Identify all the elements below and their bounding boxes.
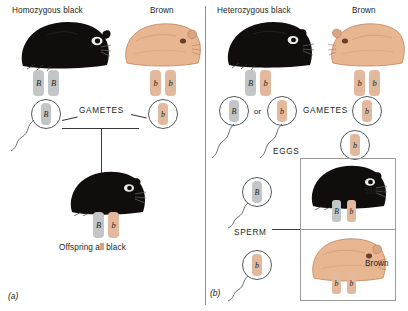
gamete-circle-icon: b <box>352 96 382 126</box>
allele-chip: B <box>252 181 262 203</box>
black-guinea-pig-icon <box>67 170 147 216</box>
allele-chip: b <box>347 272 356 294</box>
eggs-label: EGGS <box>273 147 299 156</box>
allele-chip: b <box>158 103 168 125</box>
offspring-result-label: Black <box>365 187 386 197</box>
offspring-result-label: Brown <box>365 259 389 269</box>
allele-chip: b <box>260 70 271 96</box>
cross-line <box>62 116 78 121</box>
parent-label-homozygous-black: Homozygous black <box>12 6 83 16</box>
allele-chip: B <box>332 200 341 222</box>
allele-chip: b <box>165 70 176 96</box>
allele-chip: B <box>41 103 51 125</box>
allele-chip: B <box>245 70 256 96</box>
allele-chip: b <box>369 70 380 96</box>
allele-chip: B <box>33 70 44 96</box>
allele-chip: B <box>48 70 59 96</box>
allele-chip: B <box>93 212 104 238</box>
parent-label-brown: Brown <box>150 6 174 16</box>
panel-tag-b: (b) <box>210 288 220 298</box>
parent-label-brown: Brown <box>352 6 376 16</box>
allele-chip: b <box>347 200 356 222</box>
gamete-conjunction: or <box>254 107 261 117</box>
panel-tag-a: (a) <box>8 291 18 301</box>
brown-guinea-pig-icon <box>328 21 406 69</box>
gametes-label: GAMETES <box>79 106 124 115</box>
gametes-label: GAMETES <box>303 106 348 115</box>
allele-chip: b <box>362 100 372 122</box>
punnett-row-divider <box>300 229 396 230</box>
cross-line <box>101 128 139 129</box>
sperm-tail-icon <box>208 124 238 160</box>
sperm-tail-icon <box>224 276 250 302</box>
allele-chip: b <box>277 100 287 122</box>
cross-line <box>62 128 101 129</box>
cross-line <box>131 114 147 119</box>
sperm-label: SPERM <box>234 228 267 237</box>
gamete-circle-icon: b <box>340 130 370 160</box>
black-guinea-pig-icon <box>17 19 112 71</box>
gamete-circle-icon: b <box>148 99 178 129</box>
offspring-label: Offspring all black <box>59 243 126 253</box>
allele-chip: b <box>150 70 161 96</box>
parent-label-heterozygous-black: Heterozygous black <box>217 6 291 16</box>
allele-chip: b <box>332 272 341 294</box>
sperm-tail-icon <box>224 203 250 229</box>
brown-guinea-pig-icon <box>122 21 202 69</box>
gamete-circle-icon: B <box>219 96 249 126</box>
genetics-figure: Homozygous black Brown <box>0 0 408 311</box>
allele-chip: B <box>229 100 239 122</box>
panel-b: Heterozygous black Brown <box>204 0 408 311</box>
sperm-tail-icon <box>6 118 36 152</box>
black-guinea-pig-icon <box>223 20 315 70</box>
allele-chip: b <box>350 134 360 156</box>
allele-chip: b <box>108 212 119 238</box>
sperm-connector-line <box>272 229 300 230</box>
panel-a: Homozygous black Brown <box>0 0 204 311</box>
allele-chip: b <box>354 70 365 96</box>
gamete-circle-icon: b <box>267 96 297 126</box>
allele-chip: b <box>252 254 262 276</box>
